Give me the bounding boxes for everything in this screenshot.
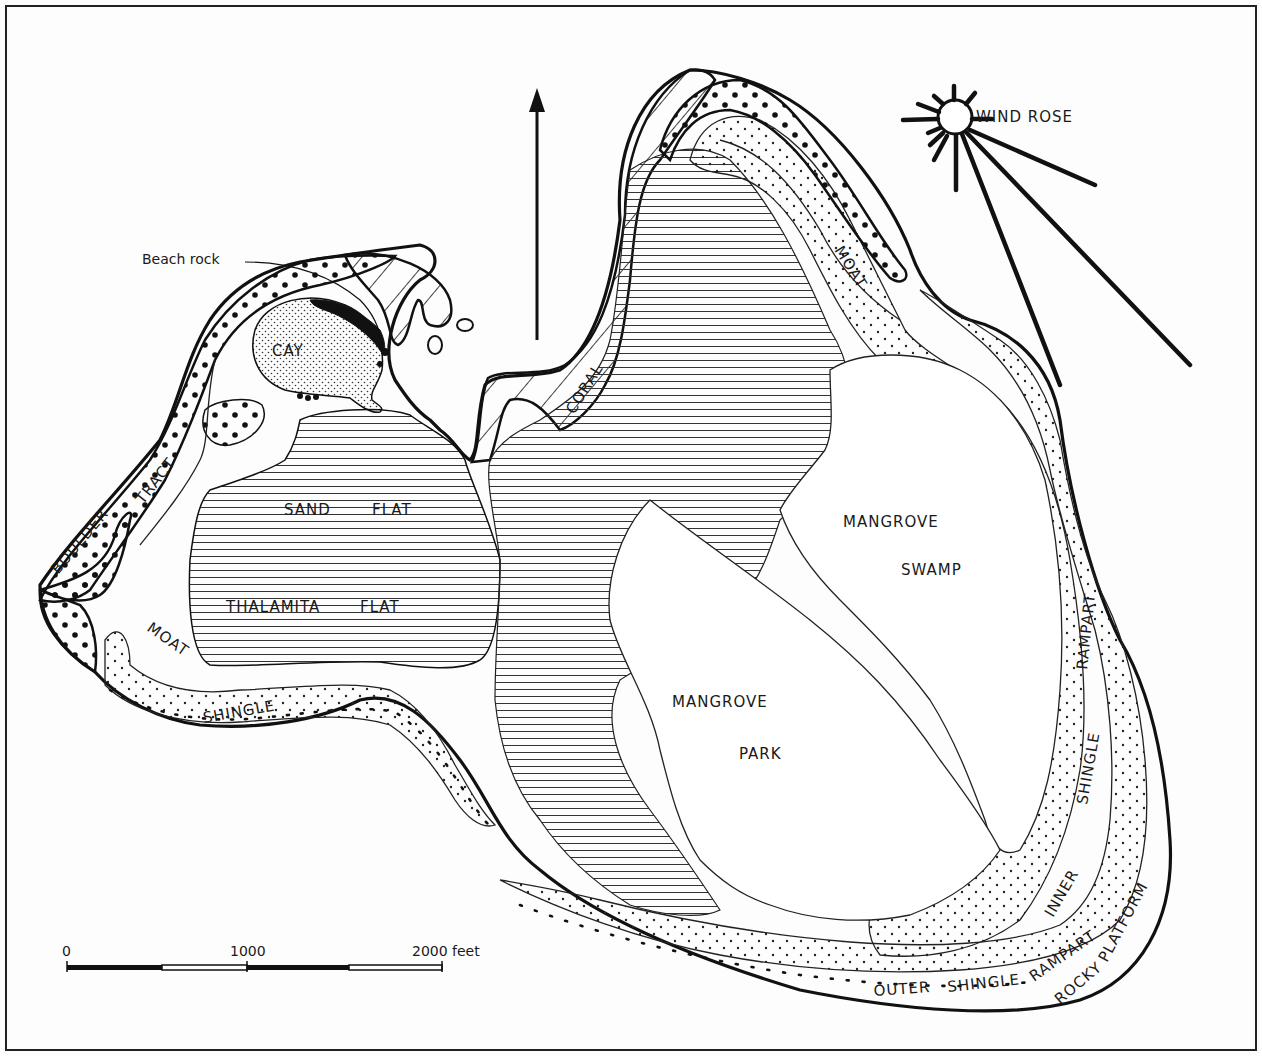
- coral-islet-2: [428, 336, 442, 354]
- mangrove-park-label-2: PARK: [739, 745, 782, 763]
- thalamita-label: THALAMITA: [225, 598, 320, 616]
- coral-islet-1: [457, 319, 473, 331]
- mangrove-swamp-label-1: MANGROVE: [843, 513, 939, 531]
- scale-bar: [67, 961, 442, 972]
- moat-west-label: MOAT: [144, 619, 193, 661]
- sand-flat-label: FLAT: [372, 501, 412, 519]
- cay-label: CAY: [272, 342, 304, 360]
- north-arrow-icon: [529, 88, 545, 340]
- scale-tick-0: 0: [62, 943, 71, 959]
- beach-rock-label: Beach rock: [142, 251, 221, 267]
- mangrove-swamp-label-2: SWAMP: [901, 561, 962, 579]
- map-drawing: WIND ROSE Beach rock CAY BOULDER TRACT M…: [0, 0, 1262, 1056]
- outer-label: OUTER: [873, 978, 931, 1000]
- thalamita-flat-label: FLAT: [360, 598, 400, 616]
- scale-tick-2000: 2000 feet: [412, 943, 480, 959]
- wind-rose-label: WIND ROSE: [976, 108, 1073, 126]
- sand-label: SAND: [284, 501, 331, 519]
- outer-shingle-label: SHINGLE: [947, 970, 1021, 996]
- boulder-tract-lobe: [203, 400, 264, 446]
- mangrove-park-label-1: MANGROVE: [672, 693, 768, 711]
- scale-tick-1000: 1000: [230, 943, 266, 959]
- wind-rose-icon: [903, 86, 1190, 385]
- map-canvas: WIND ROSE Beach rock CAY BOULDER TRACT M…: [0, 0, 1262, 1056]
- sand-thalamita-flat: [189, 410, 500, 668]
